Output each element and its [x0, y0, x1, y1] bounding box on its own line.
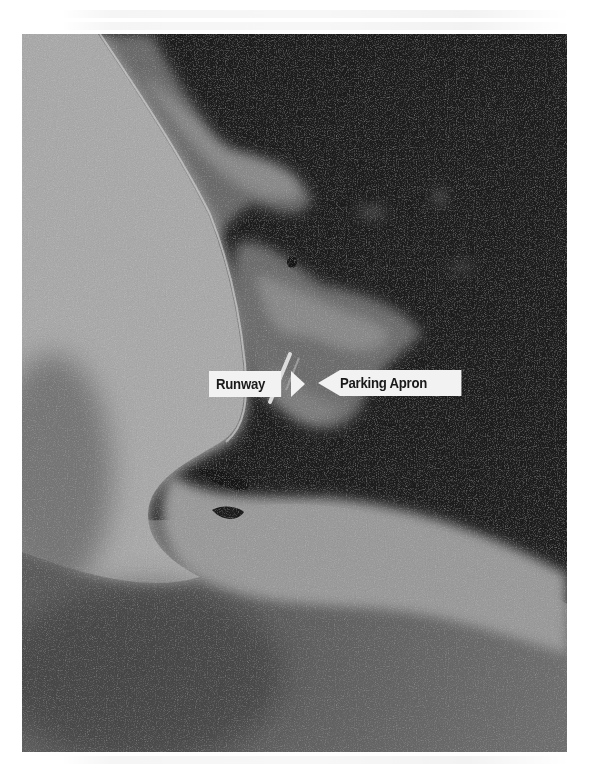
bleed-through-text: [60, 22, 570, 30]
parking-apron-label: Parking Apron: [318, 370, 478, 396]
bleed-through-text: [60, 10, 570, 18]
satellite-photo: Runway Parking Apron: [22, 34, 567, 752]
bleed-through-text: [60, 756, 570, 764]
runway-label-text: Runway: [209, 371, 281, 397]
runway-label: Runway: [209, 371, 305, 397]
arrow-right-icon: [291, 371, 305, 397]
arrow-left-icon: [318, 370, 340, 396]
parking-apron-label-text: Parking Apron: [340, 370, 461, 396]
